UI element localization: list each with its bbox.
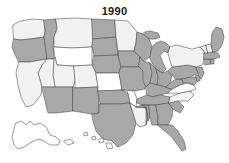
state-ND[interactable] — [92, 19, 116, 39]
state-MN[interactable] — [115, 20, 137, 51]
state-NM[interactable] — [73, 87, 99, 114]
state-OK[interactable] — [98, 90, 130, 104]
state-RI[interactable] — [211, 59, 214, 64]
state-CT[interactable] — [204, 59, 211, 65]
states-layer — [12, 18, 224, 151]
state-NY[interactable] — [168, 45, 206, 67]
state-AK[interactable] — [12, 121, 74, 149]
state-NE[interactable] — [92, 55, 121, 73]
state-AZ[interactable] — [42, 87, 73, 113]
state-GA[interactable] — [156, 103, 173, 125]
state-FL[interactable] — [158, 125, 186, 151]
us-map-container — [0, 17, 229, 163]
us-states-map — [0, 17, 229, 163]
state-ME[interactable] — [211, 27, 224, 52]
state-WA[interactable] — [13, 19, 45, 40]
state-OR[interactable] — [12, 37, 47, 62]
state-WY[interactable] — [54, 47, 92, 66]
choropleth-figure: 1990 — [0, 0, 229, 163]
state-KS[interactable] — [96, 73, 122, 91]
state-SD[interactable] — [92, 37, 118, 56]
state-MO[interactable] — [119, 67, 146, 91]
state-MT[interactable] — [54, 18, 93, 48]
